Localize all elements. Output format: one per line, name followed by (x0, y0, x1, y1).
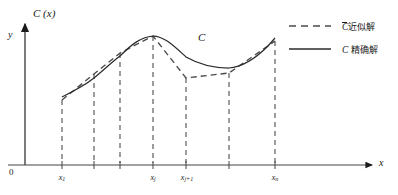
x-axis-label: x (379, 158, 383, 168)
legend-entry-exact: C精确解 (288, 40, 378, 56)
origin-label: 0 (9, 168, 14, 177)
legend-swatch-solid (288, 44, 332, 54)
chart-figure: y C (x) x 0 C x1 xj xj+1 xn C近似解 C精确解 (0, 0, 398, 195)
legend-label-exact: C精确解 (342, 45, 378, 55)
curve-annotation-label: C (198, 32, 205, 43)
tick-label-x1: x1 (59, 174, 66, 182)
legend-swatch-dashed (288, 21, 332, 31)
y-axis-label: y (8, 30, 12, 40)
tick-label-xj1: xj+1 (181, 174, 193, 182)
legend-entry-approximate: C近似解 (288, 17, 375, 33)
tick-label-xn: xn (272, 174, 279, 182)
tick-label-xj: xj (150, 174, 155, 182)
series-approximate-solution (62, 36, 275, 100)
node-drop-lines (62, 36, 275, 163)
legend-label-approximate: C近似解 (342, 22, 375, 32)
function-label: C (x) (33, 8, 55, 19)
